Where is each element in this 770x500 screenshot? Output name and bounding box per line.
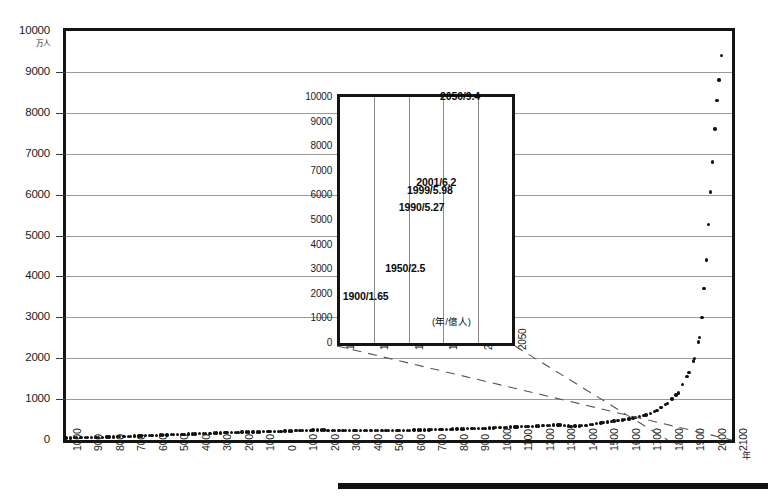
inset-unit-label: (年/億人) [432,314,471,328]
x-axis-tick-label: 0 [286,445,298,451]
data-point [717,78,720,81]
data-point [462,427,465,430]
data-point [515,425,518,428]
data-point [193,432,196,435]
data-point [705,258,708,261]
data-point [541,424,544,427]
y-axis-tick-label: 3000 [0,310,50,322]
data-point [616,419,619,422]
y-axis-tick-label: 6000 [0,188,50,200]
inset-y-tick-label: 8000 [291,140,332,151]
y-tick [56,154,66,155]
data-point [440,428,443,431]
inset-gridline [409,97,410,343]
inset-annotation: 1950/2.5 [385,262,425,274]
gridline [66,399,732,400]
y-axis-tick-label: 7000 [0,147,50,159]
inset-y-tick-label: 7000 [291,165,332,176]
inset-y-tick-label: 9000 [291,116,332,127]
data-point [693,357,696,360]
inset-y-tick-label: 10000 [291,91,332,102]
y-tick [56,236,66,237]
y-axis-tick-label: 10000 [0,24,50,36]
inset-annotation: 2050/9.4 [440,90,480,102]
x-axis-tick-label: 500 [393,434,405,451]
data-point [279,430,282,433]
data-point [182,433,185,436]
x-axis-tick-label: 200 [329,434,341,451]
data-point [397,429,400,432]
data-point [69,436,72,439]
x-axis-tick-label: 1400 [587,428,599,451]
x-axis-tick-label: 2100 [737,428,749,451]
y-axis-tick-label: 8000 [0,106,50,118]
inset-y-tick-label: 4000 [291,239,332,250]
inset-annotation: 1900/1.65 [343,290,389,302]
gridline [66,72,732,73]
x-axis-tick-label: 700 [436,434,448,451]
data-point [455,427,458,430]
data-point [187,432,190,435]
data-point [326,429,329,432]
data-point [247,430,250,433]
data-point [700,316,703,319]
data-point [208,432,211,435]
data-point [290,429,293,432]
inset-gridline [443,97,444,343]
x-axis-tick-label: 1600 [630,428,642,451]
y-tick [56,399,66,400]
data-point [311,428,314,431]
x-axis-tick-label: 1700 [651,428,663,451]
y-axis-tick-label: 2000 [0,351,50,363]
x-axis-tick-label: 400 [200,434,212,451]
y-tick [56,113,66,114]
data-point [402,429,405,432]
data-point [445,428,448,431]
data-point [606,420,609,423]
data-point [649,412,652,415]
data-point [97,436,100,439]
x-axis-tick-label: 600 [415,434,427,451]
data-point [322,428,325,431]
data-point [584,424,587,427]
y-axis-tick-label: 1000 [0,392,50,404]
y-axis-tick-label: 0 [0,433,50,445]
data-point [337,429,340,432]
x-axis-tick-label: 300 [350,434,362,451]
data-point [685,375,688,378]
inset-annotation: 1999/5.98 [407,184,453,196]
x-axis-tick-label: 1500 [608,428,620,451]
y-axis-unit-label: 万人 [0,37,50,48]
data-point [483,427,486,430]
data-point [670,397,673,400]
inset-annotation: 1990/5.27 [399,201,445,213]
data-point [573,424,576,427]
inset-y-tick-label: 3000 [291,263,332,274]
inset-x-tick-label: 2050 [517,329,528,350]
y-tick [56,358,66,359]
data-point [709,190,712,193]
data-point [569,425,572,428]
data-point [316,428,319,431]
y-tick [56,72,66,73]
data-point [301,429,304,432]
y-axis-tick-label: 9000 [0,65,50,77]
x-axis-tick-label: 1200 [544,428,556,451]
data-point [219,431,222,434]
inset-y-tick-label: 5000 [291,214,332,225]
inset-gridline [374,97,375,343]
x-axis-tick-label: 800 [458,434,470,451]
data-point [711,160,714,163]
data-point [294,429,297,432]
chart-canvas: 0100020003000400050006000700080009000100… [0,0,770,500]
data-point [122,435,125,438]
y-axis-tick-label: 5000 [0,229,50,241]
x-axis-tick-label: 400 [372,434,384,451]
data-point [531,425,534,428]
data-point [537,424,540,427]
data-point [627,417,630,420]
inset-y-tick-label: 6000 [291,189,332,200]
bottom-rule [338,483,768,489]
data-point [677,391,680,394]
inset-y-tick-label: 1000 [291,312,332,323]
